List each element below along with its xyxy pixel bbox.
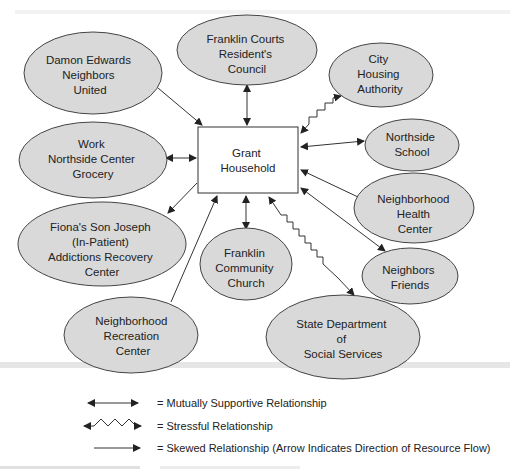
edge-northside-school — [301, 141, 364, 147]
edge-health-center — [301, 170, 358, 197]
scan-band — [0, 362, 510, 368]
edge-city-housing — [301, 96, 341, 133]
legend-skewed-label: = Skewed Relationship (Arrow Indicates D… — [157, 442, 491, 454]
legend — [84, 403, 141, 448]
edge-fiona — [168, 183, 197, 213]
cut-off-caption — [160, 466, 300, 469]
scan-band — [15, 10, 510, 14]
cut-off-caption — [0, 466, 140, 469]
legend-stressful-label: = Stressful Relationship — [157, 420, 273, 432]
node-grant-household — [198, 127, 298, 193]
node-neighbors-friends — [362, 248, 458, 304]
node-northside-school — [365, 119, 459, 171]
ecomap-diagram: Grant Household Damon Edwards Neighbors … — [0, 0, 510, 471]
edge-damon — [158, 88, 202, 125]
legend-stressful-symbol — [84, 419, 141, 426]
legend-mutual-label: = Mutually Supportive Relationship — [157, 397, 327, 409]
